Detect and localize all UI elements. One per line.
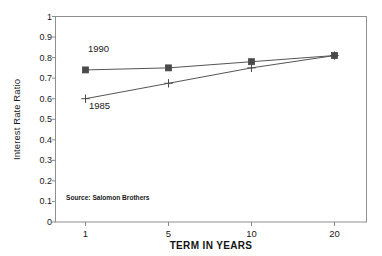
x-axis-title: TERM IN YEARS: [55, 240, 367, 251]
chart-figure: Interest Rate Ratio 00.10.20.30.40.50.60…: [0, 0, 382, 256]
marker-square: [83, 67, 89, 73]
data-series-layer: [81, 51, 338, 103]
y-axis-ticks: [52, 17, 56, 223]
marker-square: [166, 65, 172, 71]
source-note: Source: Salomon Brothers: [66, 194, 150, 202]
series-1985: [81, 51, 338, 103]
series-annotation-1990: 1990: [88, 44, 109, 54]
series-line-1985: [86, 56, 335, 99]
plot-area: [0, 0, 382, 256]
series-line-1990: [86, 56, 335, 70]
series-annotation-1985: 1985: [89, 101, 110, 111]
series-1990: [83, 53, 338, 73]
x-axis-ticks: [86, 222, 335, 226]
